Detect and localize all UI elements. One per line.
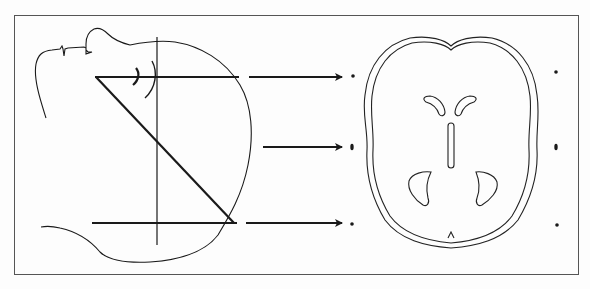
inner-brain-contour — [371, 42, 530, 243]
orbit-arc-outer — [145, 61, 155, 98]
marker-lower-right — [555, 223, 559, 227]
arrows — [246, 77, 342, 223]
occipital-horn-left — [409, 172, 431, 206]
marker-middle-right — [554, 144, 557, 150]
scan-planes — [92, 77, 239, 223]
right-markers — [554, 70, 559, 227]
marker-lower-left — [350, 222, 354, 226]
marker-upper-right — [554, 70, 558, 74]
third-ventricle — [448, 123, 454, 168]
frontal-horn-left — [424, 96, 445, 116]
axial-brain-slice — [364, 37, 538, 248]
marker-middle-left — [350, 144, 353, 150]
face-profile — [35, 28, 251, 262]
left-markers — [350, 74, 355, 226]
figure-frame — [15, 16, 579, 275]
lateral-head-profile — [35, 28, 251, 262]
diagram-svg — [0, 0, 590, 289]
frontal-horn-right — [455, 96, 476, 116]
marker-upper-left — [351, 74, 355, 78]
occipital-horn-right — [476, 172, 497, 206]
diagonal-scan-line — [96, 77, 234, 223]
diagram-canvas: Lateral head profile with scan planes ma… — [0, 0, 590, 289]
